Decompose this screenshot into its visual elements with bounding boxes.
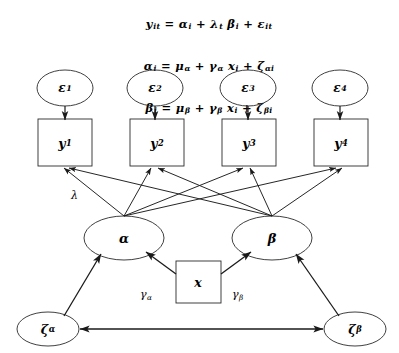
indicator-box-3 [222,119,276,166]
path-label-lambda: λ [71,189,78,202]
path-label-gamma-beta: γβ [232,288,243,302]
disturbance-ellipse-alpha [17,312,79,346]
path-alpha-to-y3 [124,168,243,216]
predictor-box-x [176,261,221,303]
path-zeta-alpha-to-alpha [64,254,101,316]
path-x-to-beta [221,252,251,274]
path-alpha-to-y4 [124,168,336,216]
path-alpha-to-y2 [124,168,151,216]
error-ellipse-4 [312,70,368,106]
latent-ellipse-beta [232,216,312,260]
path-x-to-alpha [146,252,176,274]
path-beta-to-y4 [272,168,342,216]
path-zeta-beta-to-beta [296,254,339,316]
indicator-box-4 [314,119,368,166]
path-beta-to-y1 [69,168,272,216]
latent-ellipse-alpha [84,216,164,260]
error-ellipse-3 [220,70,276,106]
indicator-box-2 [130,119,184,166]
error-ellipse-1 [37,70,93,106]
path-beta-to-y2 [158,168,272,216]
indicator-box-1 [38,119,92,166]
path-label-gamma-alpha: γα [140,288,152,302]
path-diagram: yit = αi + λt βi + εit αi = μα + γα xi +… [0,0,399,353]
paths-layer [0,0,399,353]
disturbance-ellipse-beta [324,312,386,346]
path-beta-to-y3 [250,168,272,216]
error-ellipse-2 [127,70,183,106]
